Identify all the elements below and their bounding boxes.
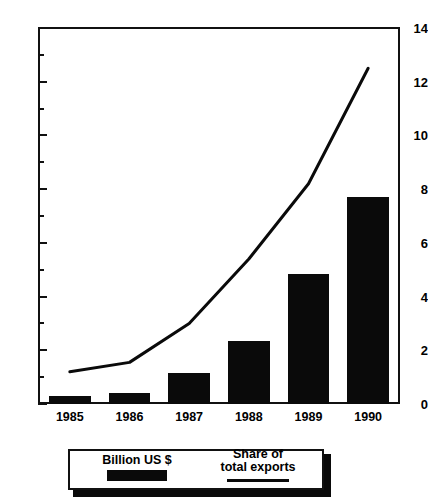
y-tick-label: 0 xyxy=(398,398,428,411)
y-tick-minor xyxy=(38,108,44,110)
bar xyxy=(347,197,389,404)
bar xyxy=(288,274,330,404)
y-tick-label: 8 xyxy=(398,183,428,196)
legend-label-line: Share of total exports xyxy=(198,448,318,474)
x-tick-label: 1985 xyxy=(56,410,84,424)
y-tick-label: 12 xyxy=(398,75,428,88)
legend-entry-bars: Billion US $ xyxy=(78,454,196,481)
y-tick-label: 4 xyxy=(398,290,428,303)
y-tick-label: 10 xyxy=(398,129,428,142)
x-tick-label: 1990 xyxy=(354,410,382,424)
plot-area xyxy=(38,27,400,404)
y-tick-minor xyxy=(38,269,44,271)
bar xyxy=(168,373,210,404)
y-tick-major xyxy=(38,242,47,244)
chart-figure: 02468101214 198519861987198819891990 Bil… xyxy=(0,0,428,502)
y-tick-major xyxy=(38,296,47,298)
y-tick-major xyxy=(38,188,47,190)
y-tick-major xyxy=(38,27,47,29)
bar xyxy=(228,341,270,404)
x-tick-label: 1987 xyxy=(175,410,203,424)
x-tick-label: 1986 xyxy=(116,410,144,424)
legend-swatch-line-icon xyxy=(227,479,289,482)
y-tick-major xyxy=(38,134,47,136)
y-tick-minor xyxy=(38,54,44,56)
bar xyxy=(109,393,151,404)
y-tick-minor xyxy=(38,322,44,324)
legend-swatch-bar-icon xyxy=(107,470,167,481)
legend-label-bars: Billion US $ xyxy=(78,454,196,467)
y-tick-label: 14 xyxy=(398,22,428,35)
y-tick-label: 6 xyxy=(398,236,428,249)
bar xyxy=(49,396,91,404)
y-tick-minor xyxy=(38,161,44,163)
y-tick-label: 2 xyxy=(398,344,428,357)
y-tick-minor xyxy=(38,376,44,378)
y-tick-minor xyxy=(38,215,44,217)
x-tick-label: 1988 xyxy=(235,410,263,424)
chart-legend: Billion US $ Share of total exports xyxy=(68,449,324,490)
y-tick-major xyxy=(38,349,47,351)
x-tick-label: 1989 xyxy=(295,410,323,424)
legend-entry-line: Share of total exports xyxy=(198,448,318,482)
y-tick-major xyxy=(38,81,47,83)
y-tick-major xyxy=(38,403,47,405)
